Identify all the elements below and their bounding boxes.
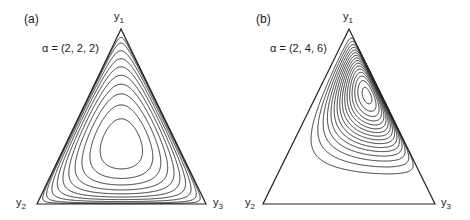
vertex-label-y3-b: y3 [441, 196, 451, 211]
vertex-label-y2-a: y2 [16, 196, 26, 211]
vertex-label-y2-b: y2 [245, 196, 255, 211]
density-contour-line [52, 51, 191, 202]
panel-label-a: (a) [24, 12, 39, 26]
density-contour-line [100, 119, 142, 169]
panel-b-dirichlet-2-4-6: (b) α = (2, 4, 6) y1 y2 y3 [235, 0, 470, 220]
vertex-label-y3-a: y3 [213, 196, 223, 211]
density-contour-line [90, 105, 153, 179]
density-contour-line [362, 87, 372, 103]
density-contour-line [63, 67, 180, 197]
vertex-label-y1-a: y1 [114, 10, 124, 25]
alpha-parameter-label-a: α = (2, 2, 2) [42, 42, 99, 54]
vertex-label-y1-b: y1 [343, 10, 353, 25]
simplex-contour-plot-a [0, 0, 235, 220]
panel-label-b: (b) [256, 12, 271, 26]
simplex-triangle [37, 29, 206, 204]
panel-a-dirichlet-2-2-2: (a) α = (2, 2, 2) y1 y2 y3 [0, 0, 235, 220]
alpha-parameter-label-b: α = (2, 4, 6) [270, 42, 327, 54]
simplex-contour-plot-b [235, 0, 470, 220]
